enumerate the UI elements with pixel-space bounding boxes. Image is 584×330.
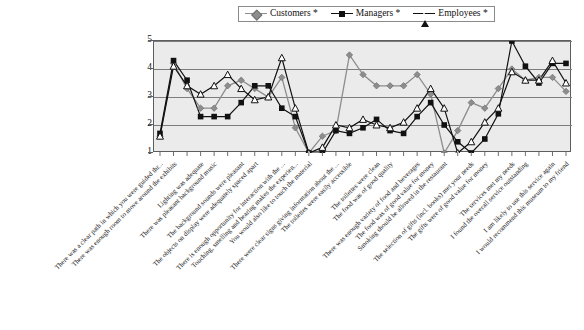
legend-item-customers[interactable]: Customers * bbox=[245, 8, 318, 19]
x-axis-label: There was pleasant background music bbox=[139, 160, 218, 239]
x-axis-label: I would recommend this museum to my frie… bbox=[474, 160, 569, 255]
legend-item-employees[interactable]: Employees * bbox=[413, 8, 487, 19]
x-axis-label: The gifts were of good value for money bbox=[406, 160, 488, 242]
legend-label-employees: Employees * bbox=[438, 8, 487, 19]
triangle-open-icon bbox=[413, 9, 435, 18]
diamond-icon bbox=[245, 9, 267, 18]
x-axis-label: Lighting was adequate bbox=[155, 160, 204, 209]
x-axis-label: The services met my needs bbox=[458, 160, 516, 218]
square-icon bbox=[331, 9, 353, 18]
legend-label-managers: Managers * bbox=[356, 8, 401, 19]
x-axis-label: There was enough room to move around the… bbox=[70, 160, 178, 268]
legend-item-managers[interactable]: Managers * bbox=[331, 8, 401, 19]
x-axis-label: There was enough variety of food and bev… bbox=[321, 160, 421, 260]
x-axis-label: Touching, smelling and hearing makes the… bbox=[190, 160, 299, 269]
x-axis-label: The food was of good quality bbox=[332, 160, 394, 222]
x-axis-label: The toilettes were easily accessible bbox=[280, 160, 353, 233]
x-axis-ticks bbox=[153, 152, 573, 158]
x-axis-label: There was a clear path in which you were… bbox=[53, 160, 164, 271]
x-axis-label: There is enough opportunity for interact… bbox=[175, 160, 286, 271]
survey-line-chart: Customers * Managers * Employees * 5 4 3… bbox=[0, 0, 584, 330]
x-axis-label: There were clear signs giving informatio… bbox=[229, 160, 340, 271]
data-series-layer bbox=[154, 41, 572, 153]
x-axis-label: The selection of gifts (incl. books) met… bbox=[372, 160, 475, 263]
legend-label-customers: Customers * bbox=[270, 8, 318, 19]
chart-legend: Customers * Managers * Employees * bbox=[238, 6, 495, 22]
x-axis-label: The food was of good value for money bbox=[354, 160, 435, 241]
x-axis-label: The background sounds were pleasant bbox=[166, 160, 245, 239]
x-axis-label: Smoking should be allowed in the restaur… bbox=[356, 160, 448, 252]
x-axis-label: You would also like to touch the materia… bbox=[228, 160, 313, 245]
plot-area bbox=[153, 40, 571, 152]
x-axis-label: The objects on display were adequately s… bbox=[151, 160, 258, 267]
x-axis-label: I found the overall service outstanding bbox=[449, 160, 529, 240]
x-axis-label: The toilettes were clean bbox=[329, 160, 380, 211]
x-axis-label: I am likely to use this service again bbox=[483, 160, 557, 234]
